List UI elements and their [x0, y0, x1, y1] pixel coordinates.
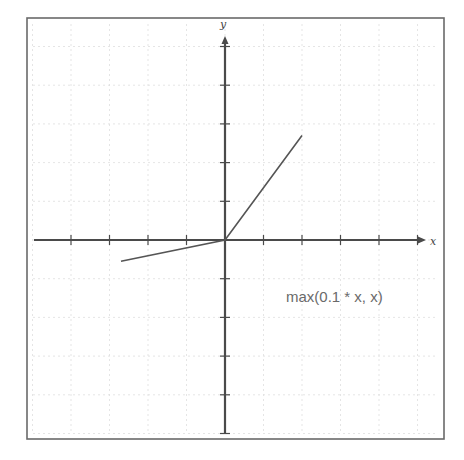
function-label: max(0.1 * x, x) — [286, 288, 383, 305]
y-axis-label: y — [219, 18, 227, 31]
plot-frame — [27, 18, 444, 439]
x-axis-label: x — [430, 235, 437, 248]
leaky-relu-plot: x y max(0.1 * x, x) — [0, 0, 464, 460]
